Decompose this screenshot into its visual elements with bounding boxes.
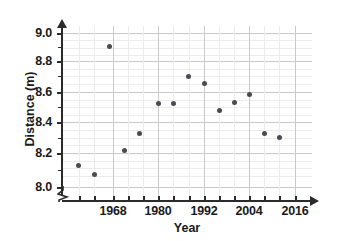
y-tick-9.0: [57, 33, 63, 35]
x-tick-label-1980: 1980: [137, 204, 179, 218]
y-tick-minor-8.1: [58, 170, 62, 171]
x-axis-title: Year: [62, 221, 312, 235]
data-point: [107, 44, 112, 49]
data-point: [202, 81, 207, 86]
x-tick-1996: [219, 196, 221, 202]
x-tick-1984: [173, 196, 175, 202]
y-tick-8.2: [57, 153, 63, 155]
x-tick-2016: [295, 196, 297, 202]
x-tick-2000: [234, 196, 236, 202]
x-tick-label-2004: 2004: [228, 204, 270, 218]
x-axis-line: [62, 200, 312, 202]
x-tick-1960: [79, 196, 81, 202]
truncated-title-strip: [0, 0, 337, 9]
y-tick-8.6: [57, 92, 63, 94]
x-tick-2008: [264, 196, 266, 202]
x-tick-1988: [189, 196, 191, 202]
data-point: [262, 131, 267, 136]
data-point: [156, 101, 161, 106]
x-tick-1972: [128, 196, 130, 202]
y-axis-arrow-icon: [57, 19, 67, 28]
scatter-plot-figure: 9.0 8.8 8.6 8.4 8.2 8.0 Distance (m) 196…: [0, 0, 337, 241]
data-point: [76, 163, 81, 168]
y-tick-8.4: [57, 122, 63, 124]
y-axis-title: Distance (m): [23, 49, 37, 169]
x-tick-1992: [204, 196, 206, 202]
y-axis-title-wrapper: Distance (m): [14, 30, 36, 190]
x-tick-label-1968: 1968: [92, 204, 134, 218]
x-tick-1976: [143, 196, 145, 202]
data-points-layer: [62, 26, 312, 196]
data-point: [247, 92, 252, 97]
x-tick-1964: [94, 196, 96, 202]
y-tick-8.8: [57, 61, 63, 63]
data-point: [186, 74, 191, 79]
data-point: [217, 108, 222, 113]
x-tick-2004: [249, 196, 251, 202]
data-point: [122, 148, 127, 153]
y-tick-minor-8.5: [58, 107, 62, 108]
y-tick-minor-8.3: [58, 138, 62, 139]
data-point: [232, 100, 237, 105]
data-point: [137, 131, 142, 136]
x-tick-label-1992: 1992: [183, 204, 225, 218]
data-point: [92, 172, 97, 177]
y-tick-minor-8.9: [58, 47, 62, 48]
x-tick-label-2016: 2016: [274, 204, 316, 218]
x-tick-1968: [113, 196, 115, 202]
data-point: [171, 101, 176, 106]
y-tick-minor-8.7: [58, 76, 62, 77]
data-point: [277, 135, 282, 140]
x-tick-1980: [158, 196, 160, 202]
x-tick-2012: [279, 196, 281, 202]
y-tick-8.0: [57, 187, 63, 189]
